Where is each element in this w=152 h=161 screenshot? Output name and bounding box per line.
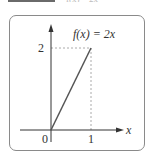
x-tick-label-1: 1 (88, 132, 94, 146)
chart-plot: f(x) = 2x 2 0 1 x (0, 0, 152, 161)
origin-label: 0 (42, 132, 48, 146)
x-axis-label: x (125, 123, 132, 137)
x-axis-arrow-icon (116, 128, 124, 133)
function-line (51, 48, 91, 130)
function-label: f(x) = 2x (73, 27, 116, 41)
y-axis-arrow-icon (49, 24, 54, 32)
y-tick-label-2: 2 (38, 41, 44, 55)
